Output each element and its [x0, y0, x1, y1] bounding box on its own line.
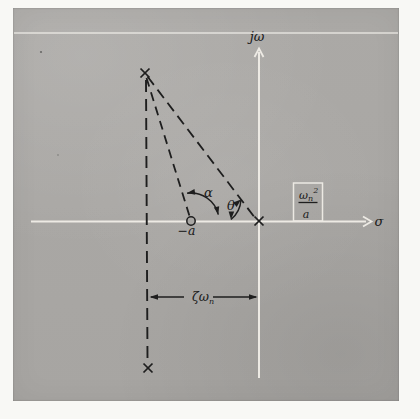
pole-pair-vertical-dashed-line: [146, 80, 148, 361]
jomega-axis: [255, 49, 264, 379]
pole-marker-lower: [144, 364, 153, 373]
gain-box: ωn2 a: [294, 183, 323, 221]
pole-to-zero-dashed-line: [147, 78, 190, 216]
scan-speck: [57, 154, 59, 156]
dimension-arrowhead-right: [249, 294, 258, 300]
scanned-figure-page: ωn2 a jω σ α θ −a ζωn: [0, 0, 420, 419]
minus-a-label: −a: [178, 223, 196, 238]
alpha-angle-arc: [187, 189, 219, 215]
alpha-angle-label: α: [204, 185, 213, 200]
gain-numerator-label: ωn2: [299, 186, 318, 203]
s-plane-diagram: ωn2 a jω σ α θ −a ζωn: [0, 0, 420, 419]
jomega-axis-label: jω: [247, 29, 265, 44]
gain-denominator-label: a: [303, 208, 310, 221]
sigma-axis-label: σ: [375, 214, 385, 229]
zeta-omega-n-label: ζωn: [192, 289, 214, 306]
dimension-arrowhead-left: [150, 294, 159, 300]
pole-to-origin-dashed-line: [148, 77, 256, 219]
pole-marker-upper: [141, 69, 150, 78]
scan-speck: [40, 51, 42, 53]
theta-angle-label: θ: [227, 198, 235, 213]
alpha-arc-arrowhead-lower: [214, 206, 219, 214]
